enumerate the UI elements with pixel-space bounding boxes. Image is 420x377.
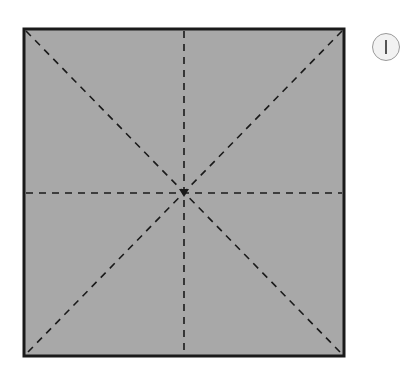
step-number-badge: 1 (372, 33, 400, 61)
step-number-glyph (385, 40, 387, 54)
folding-diagram (0, 0, 420, 377)
